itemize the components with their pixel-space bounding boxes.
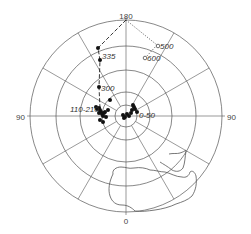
axis-label-left: 90 [16,113,25,122]
grid-spoke [136,122,210,165]
grid-spoke [78,126,121,200]
annotation-500: 500 [160,42,174,51]
annotation-300: 300 [101,84,115,93]
axis-label-right: 90 [227,113,236,122]
data-point [104,115,108,119]
data-point [96,46,100,50]
data-point [129,111,133,115]
data-point [101,120,105,124]
annotation-600: 600 [147,54,161,63]
data-point [108,98,112,102]
grid-spoke [43,122,117,165]
data-point [122,116,126,120]
track-dashed [98,20,126,108]
annotation-110-210: 110-210 [70,105,99,114]
polar-plot: 180 90 90 0 335 300 110-210 0-50 500 600 [0,0,251,234]
annotation-335: 335 [102,52,116,61]
coastline-main [109,167,196,211]
coastline-inlet [169,150,186,154]
grid-spoke [136,68,210,111]
annotation-0-50: 0-50 [139,111,156,120]
data-point [106,108,110,112]
grid-spoke [132,126,175,200]
axis-label-bottom: 0 [124,217,129,226]
axis-label-top: 180 [119,12,133,21]
